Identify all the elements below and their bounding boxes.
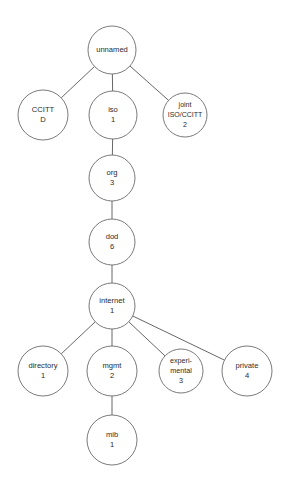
tree-node-iso[interactable]: iso1	[89, 91, 137, 139]
node-label-dod-line-0: dod	[106, 232, 119, 241]
node-label-ccitt-line-0: CCITT	[32, 105, 55, 114]
tree-edge	[130, 66, 169, 100]
tree-node-directory[interactable]: directory1	[18, 346, 68, 396]
node-label-internet-line-1: 1	[110, 306, 114, 315]
node-label-mgmt-line-0: mgmt	[103, 361, 123, 370]
node-label-ccitt-line-1: D	[40, 115, 46, 124]
tree-canvas: unnamedCCITTDiso1jointISO/CCITT2org3dod6…	[0, 0, 288, 485]
node-label-joint-iso-ccitt-line-1: ISO/CCITT	[168, 111, 203, 118]
node-label-org-line-0: org	[107, 168, 118, 177]
tree-node-org[interactable]: org3	[89, 155, 135, 201]
tree-node-private[interactable]: private4	[222, 346, 272, 396]
node-label-mgmt-line-1: 2	[110, 371, 114, 380]
nodes-layer: unnamedCCITTDiso1jointISO/CCITT2org3dod6…	[18, 26, 272, 465]
node-label-directory-line-1: 1	[41, 371, 45, 380]
tree-edge	[61, 66, 94, 97]
node-label-directory-line-0: directory	[28, 361, 57, 370]
tree-node-internet[interactable]: internet1	[89, 283, 135, 329]
tree-node-mib[interactable]: mib1	[87, 415, 137, 465]
node-label-mib-line-1: 1	[110, 440, 114, 449]
tree-node-unnamed[interactable]: unnamed	[88, 26, 136, 74]
node-label-org-line-1: 3	[110, 178, 114, 187]
node-label-experimental-line-1: mental	[170, 366, 192, 375]
node-label-joint-iso-ccitt-line-0: joint	[178, 101, 192, 109]
tree-node-experimental[interactable]: experi-mental3	[159, 349, 203, 393]
tree-node-mgmt[interactable]: mgmt2	[87, 346, 137, 396]
tree-edge	[129, 322, 165, 356]
node-label-iso-line-1: 1	[111, 115, 115, 124]
node-label-private-line-1: 4	[245, 371, 249, 380]
node-label-experimental-line-2: 3	[179, 376, 183, 385]
node-label-mib-line-0: mib	[106, 430, 118, 439]
tree-node-dod[interactable]: dod6	[89, 219, 135, 265]
oid-tree-diagram: unnamedCCITTDiso1jointISO/CCITT2org3dod6…	[0, 0, 288, 485]
tree-node-joint-iso-ccitt[interactable]: jointISO/CCITT2	[163, 93, 207, 137]
node-label-dod-line-1: 6	[110, 242, 114, 251]
node-label-iso-line-0: iso	[108, 105, 118, 114]
node-label-private-line-0: private	[236, 361, 259, 370]
node-label-experimental-line-0: experi-	[170, 356, 193, 365]
tree-node-ccitt[interactable]: CCITTD	[18, 90, 68, 140]
node-label-joint-iso-ccitt-line-2: 2	[183, 121, 187, 128]
node-label-unnamed-line-0: unnamed	[96, 45, 128, 54]
node-label-internet-line-0: internet	[99, 296, 125, 305]
tree-edge	[61, 322, 95, 354]
